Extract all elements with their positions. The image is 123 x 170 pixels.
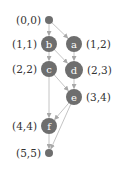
edge-start-to-a bbox=[52, 23, 68, 38]
node-start bbox=[45, 16, 53, 24]
node-d: d bbox=[65, 61, 83, 79]
coord-label-start: (0,0) bbox=[16, 14, 41, 26]
node-e: e bbox=[66, 89, 82, 105]
dag-diagram: bacdef (0,0)(1,1)(1,2)(2,2)(2,3)(3,4)(4,… bbox=[0, 0, 123, 170]
node-f: f bbox=[41, 118, 57, 134]
node-end bbox=[45, 149, 53, 157]
node-a: a bbox=[66, 36, 82, 52]
coord-label-e: (3,4) bbox=[86, 91, 111, 103]
coord-label-end: (5,5) bbox=[16, 147, 41, 159]
coord-label-a: (1,2) bbox=[86, 38, 111, 50]
edge-c-to-e bbox=[54, 75, 68, 91]
edge-b-to-d bbox=[55, 50, 68, 63]
node-b: b bbox=[41, 36, 57, 52]
edge-e-to-f bbox=[55, 103, 69, 120]
coord-label-c: (2,2) bbox=[12, 63, 37, 75]
node-letter: c bbox=[46, 64, 52, 75]
node-circle bbox=[45, 16, 53, 24]
nodes-layer: bacdef bbox=[41, 16, 83, 157]
node-letter: d bbox=[71, 65, 78, 76]
node-circle bbox=[45, 149, 53, 157]
node-letter: b bbox=[46, 39, 52, 50]
coord-label-b: (1,1) bbox=[12, 38, 37, 50]
node-c: c bbox=[41, 61, 57, 77]
node-letter: e bbox=[71, 92, 77, 103]
coord-label-d: (2,3) bbox=[87, 64, 112, 76]
node-letter: a bbox=[71, 39, 77, 50]
coord-label-f: (4,4) bbox=[12, 120, 37, 132]
coordinate-labels-layer: (0,0)(1,1)(1,2)(2,2)(2,3)(3,4)(4,4)(5,5) bbox=[12, 14, 112, 159]
